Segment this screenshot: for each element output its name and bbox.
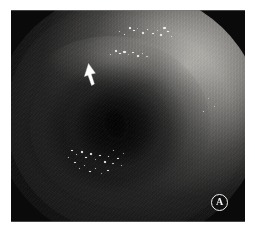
- arrow-marker-icon: [83, 63, 99, 89]
- figure-root: A: [0, 0, 255, 238]
- endoscope-field-of-view: [11, 10, 245, 222]
- plate-edge-top: [11, 10, 245, 11]
- panel-label-badge: A: [211, 194, 228, 211]
- plate-edge-bottom: [11, 221, 245, 222]
- video-scanline-texture: [11, 10, 245, 222]
- endoscopy-image-plate: [11, 10, 245, 222]
